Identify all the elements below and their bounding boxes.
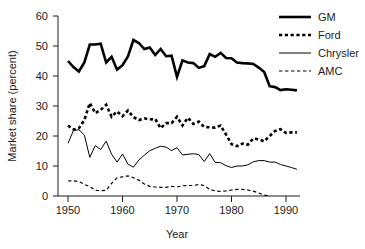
legend-label-amc: AMC: [318, 65, 343, 77]
y-tick-label-10: 10: [36, 160, 48, 172]
x-tick-label-1960: 1960: [110, 204, 134, 216]
x-axis-label: Year: [166, 228, 189, 240]
x-tick-marks: [68, 196, 286, 202]
y-tick-label-60: 60: [36, 10, 48, 22]
y-tick-label-0: 0: [42, 190, 48, 202]
y-tick-label-20: 20: [36, 130, 48, 142]
x-tick-label-1980: 1980: [219, 204, 243, 216]
series-line-ford: [68, 103, 297, 146]
series-line-amc: [68, 176, 270, 196]
x-tick-label-1970: 1970: [165, 204, 189, 216]
y-tick-label-50: 50: [36, 40, 48, 52]
market-share-line-chart: 60 50 40 30 20 10 0 1950 1960 1970 1980 …: [0, 0, 365, 249]
y-tick-label-40: 40: [36, 70, 48, 82]
series-layer: [68, 40, 297, 196]
x-tick-label-1950: 1950: [56, 204, 80, 216]
x-tick-label-1990: 1990: [274, 204, 298, 216]
y-tick-marks: [53, 16, 58, 196]
y-tick-label-30: 30: [36, 100, 48, 112]
series-line-chrysler: [68, 130, 297, 170]
legend-label-ford: Ford: [318, 29, 341, 41]
y-axis-label: Market share (percent): [6, 50, 18, 161]
chart-figure: 60 50 40 30 20 10 0 1950 1960 1970 1980 …: [0, 0, 365, 249]
chart-legend: GM Ford Chrysler AMC: [279, 11, 359, 77]
series-line-gm: [68, 40, 297, 90]
legend-label-gm: GM: [318, 11, 336, 23]
legend-label-chrysler: Chrysler: [318, 47, 359, 59]
